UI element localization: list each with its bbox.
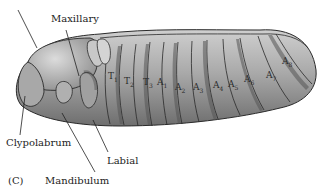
mandibulum-lobe xyxy=(56,81,72,103)
label-labial: Labial xyxy=(107,156,138,166)
segment-label-a3: A3 xyxy=(193,83,203,94)
segment-label-t3: T3 xyxy=(143,78,153,89)
label-clypolabrum: Clypolabrum xyxy=(6,138,71,148)
segment-label-a7: A7 xyxy=(266,71,276,82)
embryo-illustration xyxy=(0,0,329,193)
panel-label: (C) xyxy=(8,176,23,186)
segment-label-t1: T1 xyxy=(108,72,118,83)
segment-label-a4: A4 xyxy=(213,81,223,92)
segment-label-a1: A1 xyxy=(157,78,167,89)
label-mandibulum: Mandibulum xyxy=(45,176,109,186)
label-maxillary: Maxillary xyxy=(51,14,99,24)
segment-label-a2: A2 xyxy=(175,83,185,94)
segment-label-a8: A8 xyxy=(282,57,292,68)
segment-label-t2: T2 xyxy=(124,77,134,88)
segment-label-a5: A5 xyxy=(228,80,238,91)
segment-label-a6: A6 xyxy=(244,75,254,86)
